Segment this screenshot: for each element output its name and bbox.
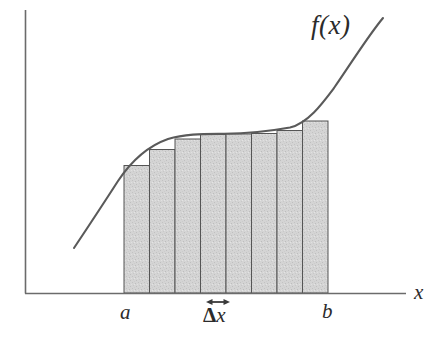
lower-limit-label: a: [120, 300, 131, 325]
riemann-bar: [124, 166, 150, 294]
riemann-bar: [226, 134, 252, 293]
riemann-bar: [175, 139, 201, 293]
delta-x-label: Δx: [203, 303, 226, 328]
riemann-sum-figure: f(x) a b x Δx: [0, 0, 443, 346]
function-label: f(x): [311, 10, 350, 41]
riemann-bar: [252, 134, 278, 294]
riemann-bar: [201, 135, 227, 294]
riemann-bar: [150, 150, 176, 294]
x-axis-label: x: [414, 280, 423, 305]
riemann-rectangles: [124, 121, 328, 293]
riemann-bar: [303, 121, 329, 293]
riemann-sum-plot: [0, 0, 443, 346]
upper-limit-label: b: [322, 299, 333, 324]
riemann-bar: [277, 131, 303, 294]
delta-x-variable: x: [216, 303, 225, 327]
delta-glyph: Δ: [203, 303, 216, 327]
